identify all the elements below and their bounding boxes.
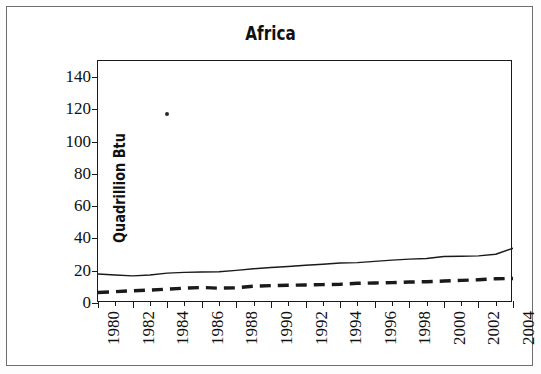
x-tick-label: 1980 xyxy=(104,311,124,345)
y-tick-label: 0 xyxy=(83,293,92,313)
y-tick-label: 40 xyxy=(74,228,91,248)
x-tick-label: 1986 xyxy=(208,311,228,345)
y-tick-label: 120 xyxy=(66,99,92,119)
y-tick-label: 60 xyxy=(74,196,91,216)
x-tick-label: 2000 xyxy=(450,311,470,345)
x-tick-label: 1990 xyxy=(277,311,297,345)
y-tick-label: 140 xyxy=(66,67,92,87)
x-tick-label: 1982 xyxy=(139,311,159,345)
figure-page: Africa Quadrillion Btu 02040608010012014… xyxy=(0,0,541,374)
x-tick-label: 2002 xyxy=(484,311,504,345)
x-tick-label: 2004 xyxy=(519,311,539,345)
x-tick-label: 1998 xyxy=(415,311,435,345)
x-tick-label: 1994 xyxy=(346,311,366,345)
series-line-consumption xyxy=(98,278,513,292)
x-tick-label: 1992 xyxy=(312,311,332,345)
series-lines xyxy=(98,61,513,303)
x-tick-label: 1996 xyxy=(381,311,401,345)
y-tick-label: 20 xyxy=(74,261,91,281)
page-title: Africa xyxy=(54,22,487,44)
plot-area: Quadrillion Btu 020406080100120140 19801… xyxy=(97,60,512,302)
series-line-production xyxy=(98,248,513,276)
x-tick-mark xyxy=(513,301,514,308)
x-tick-label: 1988 xyxy=(242,311,262,345)
y-tick-label: 100 xyxy=(66,132,92,152)
x-tick-label: 1984 xyxy=(173,311,193,345)
y-tick-label: 80 xyxy=(74,164,91,184)
